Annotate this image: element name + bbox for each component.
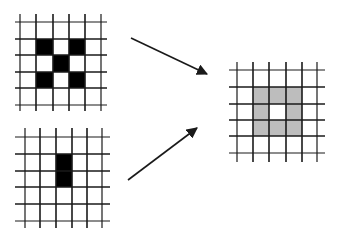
arrows — [128, 38, 207, 180]
grid-cell-gray — [269, 87, 286, 104]
input-grid-vertical-bar — [15, 128, 110, 228]
grid-cell-black — [56, 171, 72, 187]
grid-cell-gray — [253, 120, 269, 136]
diagram-canvas — [0, 0, 337, 233]
grid-cell-black — [53, 55, 69, 72]
input-grid-checkerboard — [15, 14, 107, 111]
grid-cell-black — [36, 39, 53, 55]
grid-cell-black — [69, 39, 85, 55]
grid-cell-black — [36, 72, 53, 88]
grid-cell-gray — [286, 104, 302, 120]
grid-cell-gray — [269, 120, 286, 136]
grid-cell-gray — [253, 87, 269, 104]
arrow-bottom-to-output-icon — [128, 128, 197, 180]
grid-cell-gray — [286, 87, 302, 104]
grid-cell-black — [56, 154, 72, 171]
grid-cell-black — [69, 72, 85, 88]
arrow-top-to-output-icon — [131, 38, 207, 74]
output-grid-gray-ring — [229, 62, 325, 162]
grid-cell-gray — [253, 104, 269, 120]
grid-cell-gray — [286, 120, 302, 136]
